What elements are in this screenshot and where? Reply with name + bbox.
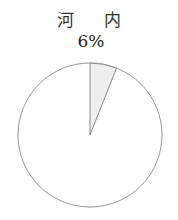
pie-chart [0, 0, 178, 220]
